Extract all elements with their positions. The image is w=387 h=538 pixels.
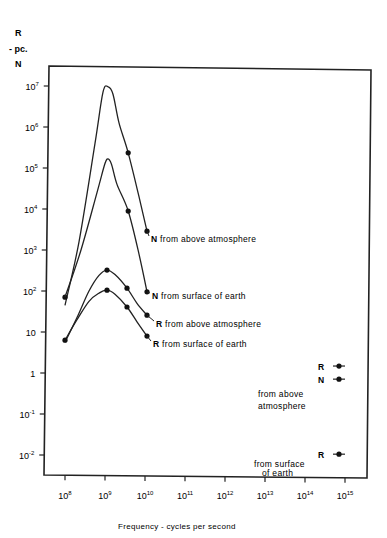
data-point [126, 208, 131, 213]
data-point [62, 338, 67, 343]
legend-above-caption-1: from above [258, 389, 304, 399]
plot-frame [44, 66, 371, 478]
data-point [104, 267, 109, 272]
legend-R-above: R [318, 362, 324, 372]
y-axis-title-line: - pc. [9, 44, 28, 54]
y-axis-title-line: R [15, 28, 22, 38]
x-tick-label: 1012 [217, 490, 234, 501]
y-axis-title: R - pc. N [9, 28, 28, 69]
y-tick-label: 10 [26, 328, 36, 338]
y-tick-label: 104 [24, 204, 38, 215]
y-tick-label: 10-2 [19, 450, 35, 461]
plot-series [62, 86, 154, 343]
data-point [104, 288, 109, 293]
legend-marker-point [336, 377, 341, 382]
data-point [124, 304, 129, 309]
label-leader [147, 315, 154, 321]
series-label-r-from-above-atmosphere: R from above atmosphere [156, 319, 261, 329]
x-tick-label: 1014 [297, 490, 314, 501]
legend-R-surface: R [318, 450, 324, 460]
x-axis: 108109101010111012101310141015 [58, 475, 354, 501]
legend-marker-point [336, 363, 341, 368]
data-point [144, 229, 149, 234]
legend-marker-point [336, 452, 341, 457]
x-tick-label: 1015 [337, 490, 354, 501]
x-tick-label: 109 [98, 490, 112, 501]
y-tick-label: 107 [25, 81, 39, 92]
x-tick-label: 1011 [177, 490, 194, 501]
y-tick-label: 10-1 [19, 409, 35, 420]
data-point [126, 150, 131, 155]
y-axis-title-line: N [15, 59, 22, 69]
y-tick-label: 103 [23, 245, 37, 256]
series-labels: N from above atmosphereN from surface of… [151, 234, 261, 349]
y-tick-label: 106 [25, 122, 39, 133]
series-line-r-from-above-atmosphere [65, 270, 147, 342]
y-tick-label: 105 [24, 163, 38, 174]
legend-N-above: N [318, 375, 324, 385]
series-label-n-from-above-atmosphere: N from above atmosphere [151, 234, 256, 244]
series-label-r-from-surface-of-earth: R from surface of earth [153, 339, 247, 349]
legend-surface-caption-2: of earth [262, 468, 293, 478]
series-line-r-from-surface-of-earth [65, 290, 147, 340]
y-tick-label: 1 [30, 369, 35, 379]
series-label-n-from-surface-of-earth: N from surface of earth [152, 291, 246, 301]
data-point [124, 286, 129, 291]
x-tick-label: 1013 [257, 490, 274, 501]
y-tick-label: 102 [23, 286, 37, 297]
x-tick-label: 1010 [137, 490, 154, 501]
x-tick-label: 108 [58, 490, 72, 501]
chart: R - pc. N 10710610510410310210110-110-2 … [0, 0, 387, 538]
x-axis-title: Frequency - cycles per second [118, 522, 236, 531]
legend-annotations: RNfrom aboveatmosphereRfrom surfaceof ea… [254, 362, 345, 478]
legend-above-caption-2: atmosphere [258, 401, 306, 411]
